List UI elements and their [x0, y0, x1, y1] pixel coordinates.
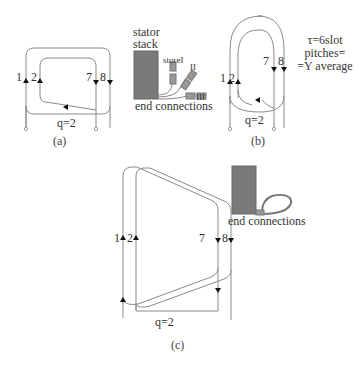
slot-label-7: 7 — [86, 71, 92, 84]
store-ii-label: II — [190, 62, 196, 72]
end-connections-label: end connections — [228, 215, 306, 228]
end-connections-detail — [232, 166, 291, 215]
q-label: q=2 — [155, 316, 174, 329]
slot-label-7: 7 — [199, 232, 205, 245]
slot-label-1: 1 — [220, 72, 226, 85]
slot-label-7: 7 — [263, 55, 269, 68]
slot-label-8: 8 — [100, 71, 106, 84]
panel-c-arrows — [120, 235, 234, 302]
panel-b-arrows — [227, 67, 287, 103]
slot-label-8: 8 — [278, 55, 284, 68]
q-label: q=2 — [245, 114, 264, 127]
note-line-3: =Y average — [292, 60, 358, 73]
caption-a: (a) — [53, 134, 66, 149]
slot-label-1: 1 — [16, 71, 22, 84]
slot-label-2: 2 — [31, 71, 37, 84]
panel-c-coils — [123, 167, 231, 320]
pole-pitch-note: τ=6slot pitches= =Y average — [292, 34, 358, 73]
slot-label-8: 8 — [222, 232, 228, 245]
panel-b-coils — [230, 16, 284, 128]
slot-label-2: 2 — [229, 72, 235, 85]
store-i-label: storeI — [163, 55, 184, 65]
slot-label-1: 1 — [114, 232, 120, 245]
slot-label-2: 2 — [127, 232, 133, 245]
stack-label: stack — [133, 38, 158, 51]
end-connections-label: end connections — [135, 100, 213, 113]
q-label: q=2 — [57, 117, 76, 130]
caption-c: (c) — [171, 338, 184, 353]
caption-b: (b) — [251, 134, 265, 149]
